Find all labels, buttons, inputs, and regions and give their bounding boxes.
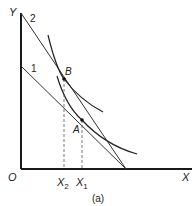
figure-caption: (a)	[92, 193, 104, 204]
point-b-label: B	[65, 66, 72, 77]
budget-line-2	[21, 13, 126, 169]
x-axis-label: X	[181, 171, 190, 183]
budget-line-1	[21, 66, 126, 169]
point-b	[62, 77, 66, 81]
y-axis-label: Y	[9, 6, 17, 18]
budget-line-1-label: 1	[31, 63, 37, 74]
indifference-curve-lower	[57, 76, 137, 154]
point-a-label: A	[72, 124, 80, 135]
x2-tick-label: X2	[56, 176, 69, 191]
origin-label: O	[8, 171, 17, 183]
indifference-diagram: Y 2 1 B A O X X2 X1 (a)	[0, 0, 196, 206]
point-a	[80, 118, 84, 122]
x1-tick-label: X1	[75, 176, 88, 191]
budget-line-2-label: 2	[30, 13, 36, 24]
